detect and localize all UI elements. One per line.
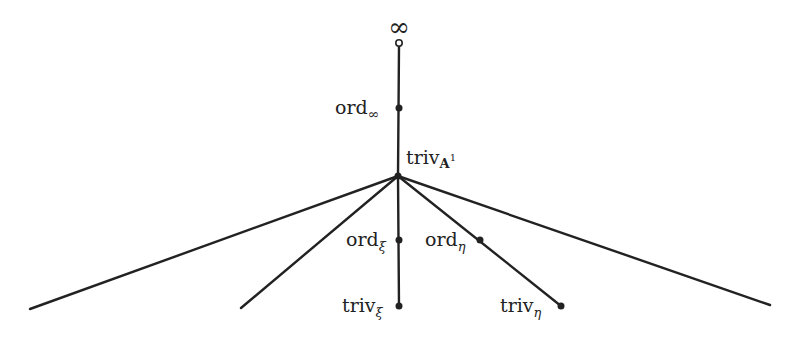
node-triv-A1 xyxy=(395,173,402,180)
tree-diagram: ∞ ord∞ trivA1 ordξ ordη trivξ trivη xyxy=(0,0,801,337)
edge-trivA1-left-far xyxy=(30,176,398,309)
node-ord-inf xyxy=(396,105,403,112)
label-triv-A1: trivA1 xyxy=(406,146,456,171)
node-ord-xi xyxy=(396,237,403,244)
node-ord-eta xyxy=(477,237,484,244)
label-infinity: ∞ xyxy=(388,12,410,42)
node-triv-eta xyxy=(558,303,565,310)
node-triv-xi xyxy=(396,303,403,310)
label-triv-eta: trivη xyxy=(500,294,542,320)
label-ord-xi: ordξ xyxy=(346,228,387,254)
label-triv-xi: trivξ xyxy=(342,294,384,320)
label-ord-eta: ordη xyxy=(425,228,466,254)
label-ord-inf: ord∞ xyxy=(335,96,379,122)
